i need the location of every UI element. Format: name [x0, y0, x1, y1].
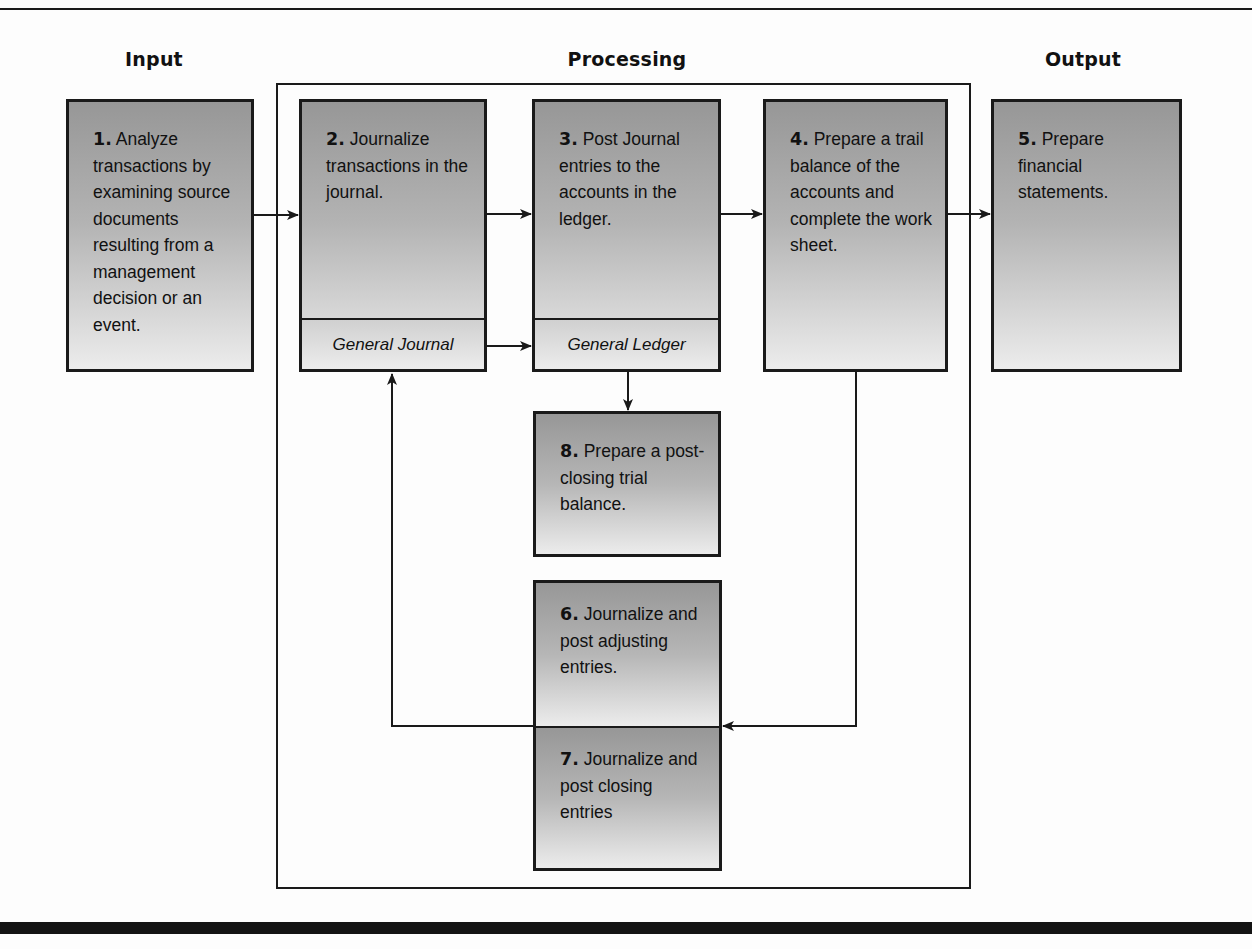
arrow-feedback-to-2 [392, 374, 533, 726]
arrow-4-to-adjusting-closing [723, 372, 856, 726]
bottom-rule [0, 922, 1252, 934]
flow-arrows [0, 0, 1252, 949]
